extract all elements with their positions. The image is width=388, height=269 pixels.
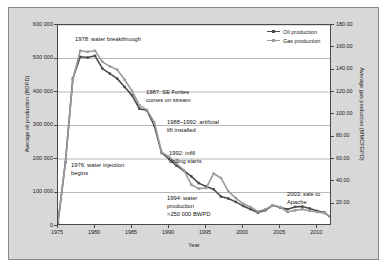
chart-figure: Average oil production (BOPD) Average ga… (8, 7, 379, 260)
x-axis-tick-label: 1985 (116, 229, 146, 235)
x-axis-tick (57, 225, 58, 228)
marker-oil-production (242, 205, 244, 207)
marker-oil-production (123, 86, 125, 88)
marker-gas-production (264, 208, 266, 210)
marker-oil-production (198, 182, 200, 184)
marker-oil-production (131, 94, 133, 96)
marker-gas-production (138, 104, 140, 106)
marker-gas-production (101, 61, 103, 63)
marker-gas-production (316, 211, 318, 213)
marker-gas-production (190, 183, 192, 185)
marker-gas-production (198, 187, 200, 189)
marker-gas-production (153, 121, 155, 123)
marker-gas-production (286, 211, 288, 213)
y2-axis-tick (331, 24, 334, 25)
marker-gas-production (79, 49, 81, 51)
legend-swatch-oil-icon (267, 31, 280, 32)
y2-axis-tick-label: 160.00 (336, 43, 376, 49)
marker-oil-production (116, 77, 118, 79)
marker-gas-production (160, 151, 162, 153)
y2-axis-tick (331, 69, 334, 70)
legend-label-gas: Gas production (283, 38, 320, 44)
y-axis-tick-label: 200 000 (9, 155, 53, 161)
marker-gas-production (64, 161, 66, 163)
marker-oil-production (220, 195, 222, 197)
y-axis-title: Average oil production (BOPD) (24, 44, 30, 184)
marker-gas-production (116, 68, 118, 70)
x-axis-tick (316, 225, 317, 228)
marker-gas-production (86, 51, 88, 53)
marker-oil-production (109, 72, 111, 74)
marker-gas-production (94, 49, 96, 51)
x-axis-tick (205, 225, 206, 228)
marker-gas-production (72, 79, 74, 81)
x-axis-tick (279, 225, 280, 228)
y-axis-tick-label: 0 (9, 222, 53, 228)
marker-gas-production (123, 79, 125, 81)
marker-oil-production (286, 208, 288, 210)
marker-oil-production (86, 56, 88, 58)
annotation-se-forties: 1987: SE Forties comes on stream (146, 88, 190, 104)
marker-gas-production (227, 190, 229, 192)
y2-axis-tick-label: 180.00 (336, 21, 376, 27)
y-axis-tick-label: 100 000 (9, 188, 53, 194)
y2-axis-tick (331, 158, 334, 159)
y2-axis-tick (331, 113, 334, 114)
x-axis-tick-label: 1990 (153, 229, 183, 235)
marker-gas-production (183, 169, 185, 171)
chart-legend: Oil production Gas production (267, 27, 320, 45)
marker-gas-production (131, 90, 133, 92)
y2-axis-tick-label: 60.00 (336, 155, 376, 161)
x-axis-tick (94, 225, 95, 228)
marker-gas-production (220, 177, 222, 179)
y2-axis-tick-label: 40.00 (336, 177, 376, 183)
marker-oil-production (138, 108, 140, 110)
marker-oil-production (227, 197, 229, 199)
x-axis-tick-label: 2005 (264, 229, 294, 235)
x-axis-tick (168, 225, 169, 228)
marker-gas-production (146, 109, 148, 111)
y2-axis-tick (331, 180, 334, 181)
x-axis-tick-label: 2010 (301, 229, 331, 235)
x-axis-tick-label: 1995 (190, 229, 220, 235)
marker-gas-production (242, 202, 244, 204)
marker-gas-production (257, 210, 259, 212)
y2-axis-tick-label: 140.00 (336, 65, 376, 71)
x-axis-tick (242, 225, 243, 228)
marker-gas-production (323, 212, 325, 214)
x-axis-tick-label: 2000 (227, 229, 257, 235)
y2-axis-tick (331, 203, 334, 204)
marker-gas-production (205, 187, 207, 189)
x-axis-title: Year (57, 242, 331, 248)
marker-oil-production (235, 201, 237, 203)
marker-gas-production (212, 172, 214, 174)
marker-gas-production (279, 206, 281, 208)
y2-axis-tick-label: 80.00 (336, 132, 376, 138)
y2-axis-tick (331, 91, 334, 92)
annotation-water-injection: 1976: water injection begins (71, 161, 124, 177)
marker-gas-production (294, 209, 296, 211)
y-axis-tick-label: 300 000 (9, 121, 53, 127)
marker-gas-production (58, 221, 59, 223)
legend-label-oil: Oil production (283, 29, 317, 35)
marker-gas-production (109, 65, 111, 67)
marker-oil-production (212, 188, 214, 190)
y2-axis-tick-label: 120.00 (336, 88, 376, 94)
y2-axis-tick-label: 100.00 (336, 110, 376, 116)
marker-gas-production (301, 208, 303, 210)
legend-item-gas: Gas production (267, 36, 320, 45)
marker-oil-production (190, 175, 192, 177)
annotation-water-production: 1994: water production >250 000 BWPD (167, 194, 210, 219)
legend-item-oil: Oil production (267, 27, 320, 36)
marker-gas-production (235, 197, 237, 199)
marker-gas-production (309, 210, 311, 212)
annotation-water-breakthrough: 1978: water breakthrough (75, 35, 141, 43)
y-axis-tick-label: 500 000 (9, 54, 53, 60)
y2-axis-tick-label: 20.00 (336, 199, 376, 205)
y-axis-tick-label: 600 000 (9, 21, 53, 27)
annotation-artificial-lift: 1988–1992: artificial lift installed (167, 118, 219, 134)
y2-axis-tick (331, 46, 334, 47)
x-axis-tick-label: 1980 (79, 229, 109, 235)
marker-oil-production (101, 67, 103, 69)
marker-gas-production (272, 204, 274, 206)
